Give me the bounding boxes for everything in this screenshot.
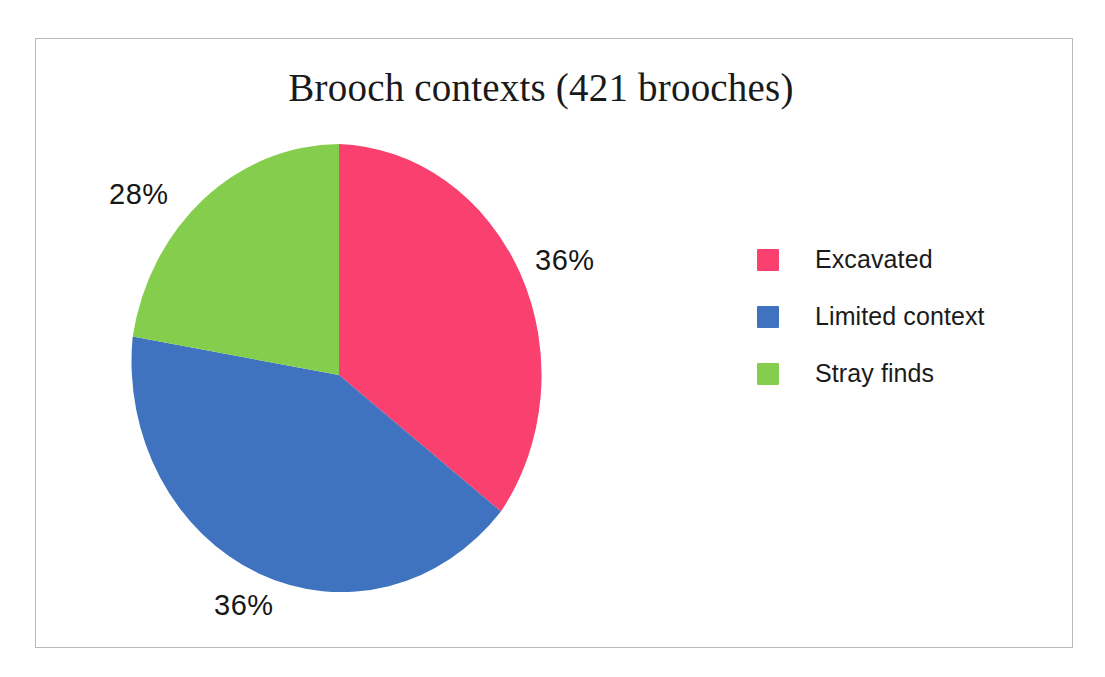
figure-frame: Brooch contexts (421 brooches) 28% 36% 3… — [35, 38, 1073, 648]
legend-item-limited-context[interactable]: Limited context — [757, 288, 1047, 345]
pie-label-limited-context: 36% — [214, 589, 274, 622]
legend-item-stray-finds[interactable]: Stray finds — [757, 345, 1047, 402]
legend-swatch-limited-context — [757, 306, 779, 328]
legend-label-excavated: Excavated — [815, 245, 933, 274]
pie-chart — [129, 144, 549, 606]
chart-title: Brooch contexts (421 brooches) — [36, 65, 1046, 110]
chart-legend: Excavated Limited context Stray finds — [757, 231, 1047, 402]
legend-label-stray-finds: Stray finds — [815, 359, 934, 388]
legend-swatch-stray-finds — [757, 363, 779, 385]
pie-label-stray-finds: 28% — [109, 178, 169, 211]
legend-swatch-excavated — [757, 249, 779, 271]
legend-item-excavated[interactable]: Excavated — [757, 231, 1047, 288]
pie-label-excavated: 36% — [535, 244, 595, 277]
pie-chart-svg — [129, 144, 549, 606]
legend-label-limited-context: Limited context — [815, 302, 985, 331]
